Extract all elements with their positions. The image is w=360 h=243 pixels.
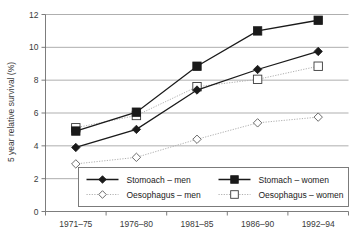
data-point-marker bbox=[193, 135, 201, 143]
y-axis-title: 5 year relative survival (%) bbox=[6, 62, 16, 162]
legend-item-3[interactable]: Oesophagus – women bbox=[219, 190, 344, 200]
x-tick-label: 1986–90 bbox=[241, 219, 274, 229]
legend: Stomoach – menStomach – womenOesophagus … bbox=[79, 168, 349, 207]
x-tick-label: 1992–94 bbox=[302, 219, 335, 229]
data-point-marker bbox=[72, 143, 80, 151]
y-tick-label: 8 bbox=[34, 75, 39, 85]
data-point-marker bbox=[231, 191, 239, 199]
data-point-marker bbox=[193, 62, 201, 70]
series-line bbox=[76, 66, 318, 128]
legend-label: Stomoach – men bbox=[127, 175, 192, 185]
data-point-marker bbox=[132, 125, 140, 133]
y-tick-label: 12 bbox=[29, 10, 39, 20]
legend-label: Oesophagus – men bbox=[127, 190, 201, 200]
x-axis-labels-group: 1971–751976–801981–851986–901992–94 bbox=[59, 219, 335, 229]
x-tick-label: 1976–80 bbox=[120, 219, 153, 229]
data-point-marker bbox=[253, 75, 261, 83]
data-point-marker bbox=[132, 153, 140, 161]
legend-label: Stomach – women bbox=[259, 175, 330, 185]
data-point-marker bbox=[314, 113, 322, 121]
survival-line-chart: 024681012 1971–751976–801981–851986–9019… bbox=[0, 0, 360, 243]
y-tick-label: 10 bbox=[29, 42, 39, 52]
data-point-marker bbox=[72, 127, 80, 135]
data-series-group bbox=[72, 16, 323, 168]
x-tick-label: 1971–75 bbox=[59, 219, 92, 229]
gridlines-group bbox=[46, 15, 349, 179]
data-point-marker bbox=[314, 47, 322, 55]
series-1 bbox=[72, 16, 323, 135]
data-point-marker bbox=[253, 119, 261, 127]
x-axis-ticks-group bbox=[46, 212, 349, 216]
data-point-marker bbox=[72, 160, 80, 168]
data-point-marker bbox=[314, 62, 322, 70]
data-point-marker bbox=[253, 27, 261, 35]
data-point-marker bbox=[314, 16, 322, 24]
series-line bbox=[76, 20, 318, 131]
x-tick-label: 1981–85 bbox=[180, 219, 213, 229]
legend-label: Oesophagus – women bbox=[259, 190, 344, 200]
legend-item-1[interactable]: Stomach – women bbox=[219, 175, 330, 185]
y-tick-label: 2 bbox=[34, 174, 39, 184]
y-tick-label: 4 bbox=[34, 141, 39, 151]
y-tick-label: 6 bbox=[34, 108, 39, 118]
legend-box bbox=[79, 168, 349, 207]
y-axis-ticks-group: 024681012 bbox=[29, 10, 45, 217]
data-point-marker bbox=[253, 65, 261, 73]
chart-canvas: 024681012 1971–751976–801981–851986–9019… bbox=[0, 0, 360, 243]
y-tick-label: 0 bbox=[34, 207, 39, 217]
series-3 bbox=[72, 62, 323, 132]
data-point-marker bbox=[231, 176, 239, 184]
data-point-marker bbox=[132, 108, 140, 116]
legend-item-0[interactable]: Stomoach – men bbox=[87, 175, 192, 185]
